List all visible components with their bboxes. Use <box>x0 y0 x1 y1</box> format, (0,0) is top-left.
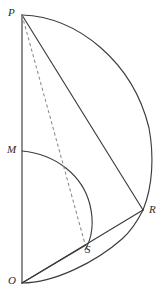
point-label-O: O <box>8 275 16 286</box>
point-label-S: S <box>85 244 91 255</box>
arc-P-to-R <box>22 15 152 210</box>
point-label-P: P <box>8 7 15 18</box>
point-label-R: R <box>149 204 156 215</box>
arc-M-to-S <box>22 151 92 250</box>
point-label-M: M <box>7 144 16 155</box>
segment-P-R <box>22 15 143 210</box>
segment-P-S-dashed <box>22 15 85 244</box>
geometry-figure: P M O R S <box>0 0 166 298</box>
geometry-canvas <box>0 0 166 298</box>
